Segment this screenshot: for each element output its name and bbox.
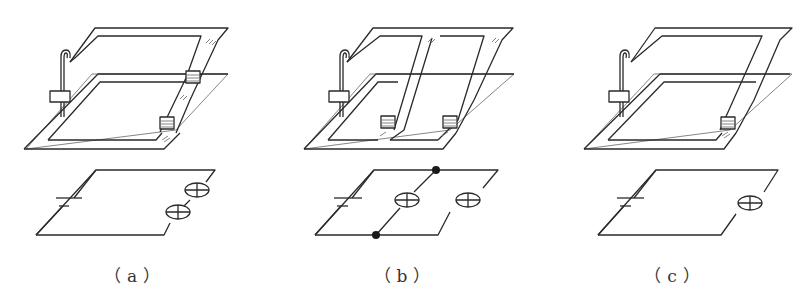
caption-b: （b） (270, 262, 540, 287)
lamp-symbol-icon (166, 205, 190, 219)
panel-c: （c） (540, 0, 809, 304)
caption-c: （c） (540, 262, 809, 287)
panel-b-drawing (270, 0, 540, 304)
panel-a: （a） (0, 0, 270, 304)
lamp-symbol-icon (738, 196, 762, 210)
lamp-holder-icon (721, 117, 735, 129)
lamp-symbol-icon (395, 193, 419, 207)
lamp-holder-icon (381, 116, 395, 128)
circuit-schematic-c (598, 170, 778, 235)
junction-dot-icon (432, 166, 440, 174)
upper-frame (70, 28, 228, 133)
panel-c-drawing (540, 0, 809, 304)
lamp-symbol-icon (185, 183, 209, 197)
junction-dot-icon (372, 231, 380, 239)
panel-b: （b） (270, 0, 540, 304)
switch-icon (329, 50, 349, 117)
circuit-schematic-a (36, 170, 215, 235)
caption-a: （a） (0, 262, 270, 287)
circuit-schematic-b (315, 166, 498, 239)
strip-hatching (206, 39, 216, 45)
switch-icon (50, 50, 70, 117)
lower-board-outline (26, 74, 228, 149)
lamp-symbol-icon (456, 193, 480, 207)
lamp-holder-icon (186, 71, 200, 83)
panel-a-drawing (0, 0, 270, 304)
lamp-holder-icon (443, 116, 457, 128)
lamp-holder-icon (160, 117, 174, 129)
